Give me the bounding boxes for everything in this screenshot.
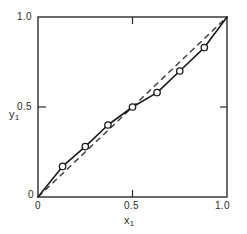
x-tick-label-mid: 0.5: [124, 200, 139, 211]
data-point: [105, 122, 111, 128]
data-point: [59, 163, 65, 169]
y-axis-label: y1: [9, 108, 19, 122]
y-axis-label-subscript: 1: [15, 113, 20, 122]
data-point: [201, 44, 207, 50]
x-tick-label-right: 1.0: [215, 200, 230, 211]
x-axis-label: x1: [124, 214, 134, 228]
x-tick-label-left: 0: [35, 200, 41, 211]
y-tick-label-top: 1.0: [17, 11, 32, 22]
data-point: [129, 104, 135, 110]
plot-svg: [0, 0, 247, 234]
y-tick-label-bottom: 0: [28, 189, 34, 200]
equilibrium-xy-diagram: 1.0 0.5 0 0 0.5 1.0 y1 x1: [0, 0, 247, 234]
data-point: [82, 143, 88, 149]
x-axis-label-subscript: 1: [130, 219, 135, 228]
data-point: [154, 89, 160, 95]
data-point: [177, 68, 183, 74]
